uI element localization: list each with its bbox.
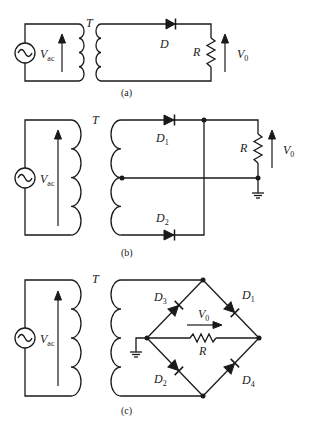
- secondary-coil-icon: [96, 24, 101, 81]
- resistor-label: R: [239, 141, 248, 155]
- vac-arrow-icon: [55, 291, 62, 386]
- diode-label: D: [159, 37, 169, 51]
- primary-coil-icon: [71, 280, 81, 396]
- diode1-label: D1: [241, 288, 255, 304]
- primary-wire-top: [25, 120, 71, 178]
- resistor-icon: [190, 334, 216, 342]
- center-tap-dot: [120, 176, 125, 181]
- diode2-label: D2: [153, 372, 167, 388]
- node-dot-top: [201, 278, 206, 283]
- v0-arrow-icon: [222, 34, 229, 72]
- output-label: V0: [237, 47, 248, 63]
- diode2-label: D2: [155, 211, 169, 227]
- panel-b-center-tapped: Vac T D1 D2 R: [15, 113, 294, 259]
- secondary-wire-bottom: [101, 67, 211, 81]
- primary-wire-top: [25, 280, 71, 338]
- v0-arrow-icon: [269, 130, 276, 168]
- secondary-wire-top: [121, 120, 258, 134]
- diode-d1-icon: [164, 115, 175, 126]
- output-label: V0: [198, 307, 209, 323]
- ac-source-icon: [15, 168, 35, 188]
- vac-arrow-icon: [59, 34, 66, 72]
- ac-source-icon: [15, 328, 35, 348]
- transformer-label: T: [86, 16, 94, 30]
- center-tap-wire: [121, 163, 258, 178]
- caption-b: (b): [121, 247, 133, 259]
- panel-a-half-wave: Vac T D R V0 (a): [15, 16, 248, 99]
- vac-arrow-icon: [55, 130, 62, 226]
- caption-c: (c): [121, 405, 132, 417]
- caption-a: (a): [121, 87, 132, 99]
- diode3-label: D3: [153, 290, 167, 306]
- resistor-label: R: [198, 344, 207, 358]
- source-label: Vac: [40, 332, 55, 348]
- output-label: V0: [283, 143, 294, 159]
- secondary-coil-icon: [111, 280, 121, 396]
- primary-coil-icon: [71, 120, 81, 235]
- junction-dot: [202, 118, 207, 123]
- diode1-label: D1: [155, 131, 169, 147]
- primary-wire-bottom: [25, 61, 79, 81]
- primary-coil-icon: [79, 24, 84, 81]
- node-dot-right: [257, 336, 262, 341]
- source-label: Vac: [40, 47, 55, 63]
- diode-d-icon: [166, 19, 176, 30]
- source-label: Vac: [40, 172, 55, 188]
- node-dot-bottom: [201, 394, 206, 399]
- transformer-label: T: [92, 272, 100, 286]
- rectifier-circuits-figure: Vac T D R V0 (a): [0, 0, 311, 424]
- diode4-label: D4: [241, 373, 255, 389]
- ac-source-icon: [15, 43, 35, 63]
- resistor-icon: [254, 134, 262, 163]
- diode-d2-icon: [164, 230, 175, 241]
- transformer-label: T: [92, 113, 100, 127]
- node-dot-left: [145, 336, 150, 341]
- resistor-icon: [207, 38, 215, 67]
- panel-c-bridge: Vac T D3 D1 D2: [15, 272, 262, 417]
- resistor-label: R: [192, 45, 201, 59]
- secondary-coil-icon: [111, 120, 121, 235]
- secondary-wire-top: [101, 24, 211, 38]
- ground-icon: [130, 338, 147, 357]
- ground-icon: [252, 178, 264, 198]
